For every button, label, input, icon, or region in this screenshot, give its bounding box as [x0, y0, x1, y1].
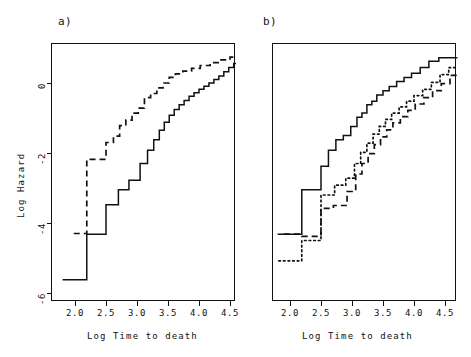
plot-frame-b: [273, 44, 456, 301]
y-tick-label-m2: -2: [37, 153, 47, 195]
y-tick-label-0: 0: [37, 83, 47, 125]
plot-frame-a: [52, 44, 235, 301]
y-tick-label-m6: -6: [37, 293, 47, 335]
figure-canvas: a) 0 -2 -4 -6 2.0 2.5 3.0 3.5 4.0 4.5 Lo…: [0, 0, 471, 357]
dashed-curve-b: [284, 75, 458, 236]
x-tick-label-4-0: 4.0: [190, 308, 208, 318]
x-tick-label-b-4-0: 4.0: [405, 308, 423, 318]
axis-ticks-b: [290, 301, 445, 306]
x-tick-label-3-0: 3.0: [128, 308, 146, 318]
plot-panel-b: b) 2.0 2.5 3.0 3.5 4.0 4.5 Log Time to d…: [235, 0, 471, 357]
axis-ticks-a: [47, 83, 231, 306]
plot-panel-a: a) 0 -2 -4 -6 2.0 2.5 3.0 3.5 4.0 4.5 Lo…: [0, 0, 236, 357]
plot-area-a: [0, 0, 236, 357]
dotted-curve-b: [279, 68, 458, 261]
x-tick-label-b-3-0: 3.0: [343, 308, 361, 318]
dashed-curve-a: [74, 55, 236, 234]
x-axis-title-b: Log Time to death: [302, 331, 413, 341]
x-tick-label-b-3-5: 3.5: [374, 308, 392, 318]
x-tick-label-2-5: 2.5: [97, 308, 115, 318]
y-tick-label-m4: -4: [37, 223, 47, 265]
data-curves-a: [63, 55, 236, 280]
solid-curve-a: [63, 60, 236, 280]
x-axis-title-a: Log Time to death: [87, 331, 198, 341]
x-tick-label-3-5: 3.5: [159, 308, 177, 318]
x-tick-label-b-2-5: 2.5: [312, 308, 330, 318]
x-tick-label-2-0: 2.0: [66, 308, 84, 318]
x-tick-label-b-2-0: 2.0: [281, 308, 299, 318]
y-axis-title: Log Hazard: [16, 153, 26, 218]
plot-area-b: [235, 0, 471, 357]
x-tick-label-b-4-5: 4.5: [436, 308, 454, 318]
data-curves-b: [278, 58, 458, 261]
